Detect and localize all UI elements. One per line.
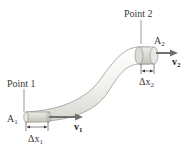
area-1-label: A1	[7, 113, 18, 126]
pipe-tube	[26, 47, 150, 122]
delta-x1-dimension	[26, 122, 48, 131]
section-1-cylinder	[24, 112, 51, 122]
delta-x2-label: Δx2	[139, 76, 154, 89]
velocity-2-label: v2	[172, 56, 181, 69]
point-1-label: Point 1	[7, 78, 36, 89]
point-2-label: Point 2	[124, 8, 153, 19]
delta-x1-label: Δx1	[28, 133, 43, 146]
delta-x2-dimension	[141, 64, 154, 74]
section-2-cylinder	[135, 47, 158, 64]
area-2-label: A2	[154, 35, 165, 48]
continuity-diagram: Point 1 Point 2 A1 A2 v1 v2 Δx1 Δx2	[0, 0, 186, 152]
velocity-1-label: v1	[74, 121, 83, 134]
